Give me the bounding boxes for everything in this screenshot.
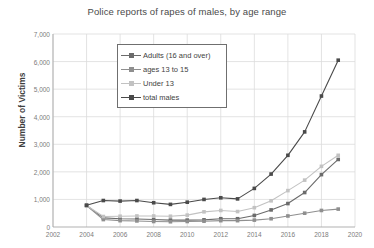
data-point-marker xyxy=(118,214,122,218)
x-tick-label: 2004 xyxy=(79,231,93,238)
legend-item[interactable]: Adults (16 and over) xyxy=(121,48,222,62)
data-point-marker xyxy=(152,214,156,218)
data-point-marker xyxy=(102,199,106,203)
data-point-marker xyxy=(152,220,156,224)
y-tick-label: 2,000 xyxy=(6,168,50,175)
data-point-marker xyxy=(219,219,223,223)
data-point-marker xyxy=(303,178,307,182)
series-adults-16-and-over xyxy=(85,158,340,222)
data-point-marker xyxy=(286,189,290,193)
x-tick-label: 2010 xyxy=(180,231,194,238)
y-tick-label: 7,000 xyxy=(6,31,50,38)
y-tick-label: 1,000 xyxy=(6,196,50,203)
data-point-marker xyxy=(286,202,290,206)
legend-item-label: total males xyxy=(143,93,179,102)
x-tick-label: 2002 xyxy=(46,231,60,238)
y-tick-label: 5,000 xyxy=(6,86,50,93)
data-point-marker xyxy=(236,219,240,223)
series-line xyxy=(87,155,339,216)
chart-container: Police reports of rapes of males, by age… xyxy=(0,0,374,248)
x-tick-label: 2014 xyxy=(247,231,261,238)
data-point-marker xyxy=(320,173,324,177)
data-point-marker xyxy=(236,197,240,201)
data-point-marker xyxy=(102,215,106,219)
data-point-marker xyxy=(135,199,139,203)
y-tick-label: 0 xyxy=(6,224,50,231)
x-tick-label: 2018 xyxy=(314,231,328,238)
data-point-marker xyxy=(185,220,189,224)
data-point-marker xyxy=(269,217,273,221)
x-tick-label: 2016 xyxy=(281,231,295,238)
legend-marker-icon xyxy=(121,92,141,102)
y-tick-label: 3,000 xyxy=(6,141,50,148)
data-point-marker xyxy=(185,213,189,217)
y-axis-tick-labels: 01,0002,0003,0004,0005,0006,0007,000 xyxy=(0,0,50,248)
data-point-marker xyxy=(202,210,206,214)
data-point-marker xyxy=(336,158,340,162)
data-point-marker xyxy=(135,219,139,223)
data-point-marker xyxy=(336,154,340,158)
data-point-marker xyxy=(219,196,223,200)
legend-item[interactable]: Under 13 xyxy=(121,76,222,90)
data-point-marker xyxy=(202,219,206,223)
data-point-marker xyxy=(135,214,139,218)
legend-item[interactable]: total males xyxy=(121,90,222,104)
series-ages-13-to-15 xyxy=(85,204,340,224)
data-point-marker xyxy=(219,209,223,213)
data-point-marker xyxy=(202,198,206,202)
data-point-marker xyxy=(286,214,290,218)
data-point-marker xyxy=(336,58,340,62)
data-point-marker xyxy=(269,199,273,203)
data-point-marker xyxy=(85,203,89,207)
data-point-marker xyxy=(185,200,189,204)
data-point-marker xyxy=(320,94,324,98)
data-point-marker xyxy=(303,191,307,195)
y-tick-label: 6,000 xyxy=(6,58,50,65)
data-point-marker xyxy=(169,220,173,224)
legend-item-label: Adults (16 and over) xyxy=(143,51,211,60)
data-point-marker xyxy=(320,209,324,213)
series-under-13 xyxy=(85,154,340,219)
data-point-marker xyxy=(269,172,273,176)
plot-area xyxy=(0,0,374,248)
legend-marker-icon xyxy=(121,50,141,60)
data-point-marker xyxy=(253,218,257,222)
x-tick-label: 2020 xyxy=(348,231,362,238)
data-point-marker xyxy=(236,210,240,214)
x-tick-label: 2006 xyxy=(113,231,127,238)
data-point-marker xyxy=(286,154,290,158)
data-point-marker xyxy=(152,201,156,205)
legend-marker-icon xyxy=(121,64,141,74)
data-point-marker xyxy=(303,211,307,215)
data-point-marker xyxy=(118,219,122,223)
legend-item-label: ages 13 to 15 xyxy=(143,65,188,74)
legend-marker-icon xyxy=(121,78,141,88)
legend: Adults (16 and over)ages 13 to 15Under 1… xyxy=(117,44,227,108)
data-point-marker xyxy=(253,206,257,210)
data-point-marker xyxy=(336,207,340,211)
y-tick-label: 4,000 xyxy=(6,113,50,120)
data-point-marker xyxy=(253,187,257,191)
data-point-marker xyxy=(320,165,324,169)
legend-item[interactable]: ages 13 to 15 xyxy=(121,62,222,76)
data-point-marker xyxy=(303,130,307,134)
data-point-marker xyxy=(169,214,173,218)
legend-item-label: Under 13 xyxy=(143,79,174,88)
x-tick-label: 2012 xyxy=(214,231,228,238)
data-point-marker xyxy=(253,214,257,218)
data-point-marker xyxy=(169,203,173,207)
chart-title: Police reports of rapes of males, by age… xyxy=(0,6,374,17)
x-tick-label: 2008 xyxy=(146,231,160,238)
data-point-marker xyxy=(118,199,122,203)
data-point-marker xyxy=(269,208,273,212)
